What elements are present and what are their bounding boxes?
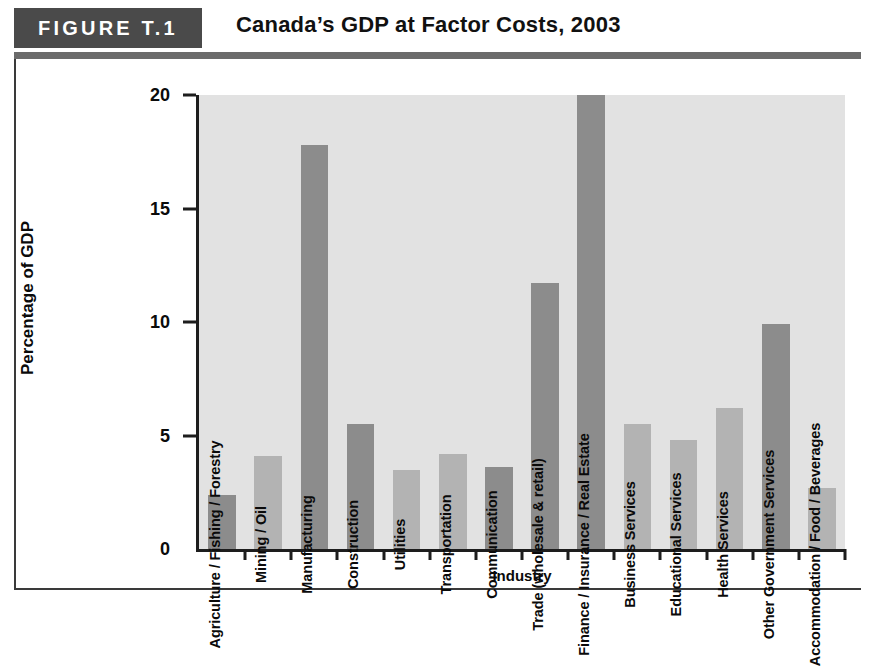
y-tick-label: 20 [150, 85, 170, 106]
x-tick-mark [844, 549, 847, 560]
bar-slot: Accommodation / Food / Beverages [799, 95, 845, 549]
y-tick-label: 0 [160, 539, 170, 560]
x-tick-mark [290, 549, 293, 560]
bar-category-label: Manufacturing [300, 495, 315, 594]
y-tick-label: 10 [150, 312, 170, 333]
x-axis-title: Industry [492, 567, 551, 584]
bar-category-label: Accommodation / Food / Beverages [807, 422, 822, 665]
bar-slot: Mining / Oil [245, 95, 291, 549]
figure-title: Canada’s GDP at Factor Costs, 2003 [236, 12, 621, 38]
bar-category-label: Other Government Services [761, 449, 776, 638]
x-tick-mark [797, 549, 800, 560]
bar-category-label: Health Services [715, 491, 730, 598]
y-tick-mark [183, 207, 196, 210]
bars-layer: Agriculture / Fishing / ForestryMining /… [199, 95, 845, 549]
bar [301, 145, 329, 549]
x-tick-mark [336, 549, 339, 560]
x-tick-mark [705, 549, 708, 560]
plot-area: Agriculture / Fishing / ForestryMining /… [196, 95, 845, 552]
x-tick-mark [474, 549, 477, 560]
bar-slot: Business Services [614, 95, 660, 549]
bar-slot: Finance / Insurance / Real Estate [568, 95, 614, 549]
bar-slot: Other Government Services [753, 95, 799, 549]
x-tick-mark [613, 549, 616, 560]
x-tick-mark [244, 549, 247, 560]
bar-slot: Health Services [707, 95, 753, 549]
x-tick-mark [428, 549, 431, 560]
x-tick-mark [567, 549, 570, 560]
bar-slot: Trade (wholesale & retail) [522, 95, 568, 549]
x-tick-mark [751, 549, 754, 560]
y-tick-label: 15 [150, 198, 170, 219]
bar-category-label: Finance / Insurance / Real Estate [577, 433, 592, 655]
y-tick-mark [183, 94, 196, 97]
bar-category-label: Business Services [623, 481, 638, 607]
y-tick-mark [183, 321, 196, 324]
x-tick-mark [382, 549, 385, 560]
page-edge [861, 0, 875, 596]
bar-slot: Transportation [430, 95, 476, 549]
bar-slot: Manufacturing [291, 95, 337, 549]
y-axis-ticks: 05101520 [0, 0, 196, 596]
y-tick-label: 5 [160, 425, 170, 446]
bar-category-label: Educational Services [669, 472, 684, 616]
bar-category-label: Utilities [392, 518, 407, 569]
bar-slot: Agriculture / Fishing / Forestry [199, 95, 245, 549]
bar-slot: Communication [476, 95, 522, 549]
bar-slot: Utilities [384, 95, 430, 549]
bar-category-label: Transportation [438, 494, 453, 594]
bar-slot: Educational Services [660, 95, 706, 549]
bar-category-label: Agriculture / Fishing / Forestry [208, 440, 223, 648]
y-tick-mark [183, 434, 196, 437]
x-tick-mark [659, 549, 662, 560]
bar-category-label: Trade (wholesale & retail) [531, 458, 546, 630]
x-axis-ticks [199, 549, 845, 561]
x-tick-mark [521, 549, 524, 560]
bar-slot: Construction [337, 95, 383, 549]
bar-category-label: Construction [346, 499, 361, 588]
bar-category-label: Mining / Oil [254, 506, 269, 583]
